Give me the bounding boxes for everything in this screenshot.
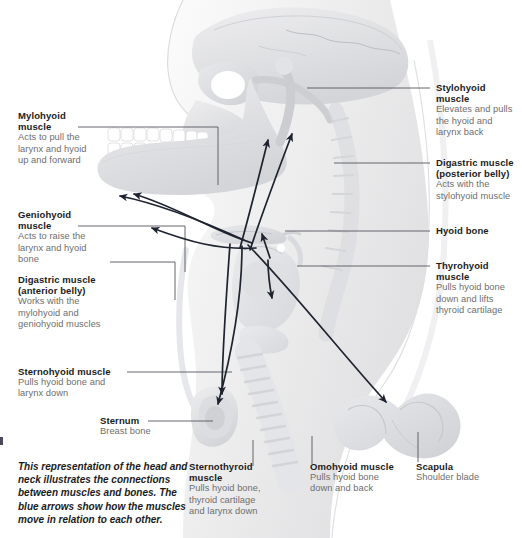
label-geniohyoid-heading-line1: Geniohyoid (18, 209, 96, 220)
label-digastric-anterior: Digastric muscle (anterior belly) Works … (18, 274, 122, 330)
label-sternohyoid-description: Pulls hyoid bone and larynx down (18, 377, 130, 399)
label-digastric-anterior-description: Works with the mylohyoid and geniohyoid … (18, 296, 122, 330)
label-mylohyoid: Mylohyoid muscle Acts to pull the larynx… (18, 110, 88, 166)
label-omohyoid: Omohyoid muscle Pulls hyoid bone down an… (310, 461, 402, 495)
anatomy-figure: Mylohyoid muscle Acts to pull the larynx… (0, 0, 522, 538)
label-sternothyroid-description: Pulls hyoid bone, thyroid cartilage and … (189, 483, 267, 517)
label-digastric-posterior: Digastric muscle (posterior belly) Acts … (436, 157, 520, 202)
label-omohyoid-description: Pulls hyoid bone down and back (310, 472, 402, 494)
label-thyrohyoid: Thyrohyoid muscle Pulls hyoid bone down … (436, 260, 520, 316)
label-hyoid-bone: Hyoid bone (436, 225, 520, 236)
label-geniohyoid-description: Acts to raise the larynx and hyoid bone (18, 231, 96, 265)
label-sternum: Sternum Breast bone (100, 415, 162, 437)
label-scapula-heading: Scapula (416, 461, 512, 472)
label-sternohyoid-heading: Sternohyoid muscle (18, 366, 130, 377)
label-mylohyoid-heading-line2: muscle (18, 121, 88, 132)
label-stylohyoid-heading: Stylohyoid muscle (436, 82, 520, 104)
label-stylohyoid: Stylohyoid muscle Elevates and pulls the… (436, 82, 520, 138)
label-thyrohyoid-heading-line1: Thyrohyoid (436, 260, 520, 271)
scapula-bone (334, 394, 461, 459)
label-sternothyroid-heading-line1: Sternothyroid (189, 461, 267, 472)
label-mylohyoid-description: Acts to pull the larynx and hyoid up and… (18, 132, 88, 166)
label-stylohyoid-description: Elevates and pulls the hyoid and larynx … (436, 104, 520, 138)
label-sternothyroid-heading-line2: muscle (189, 472, 267, 483)
label-omohyoid-heading: Omohyoid muscle (310, 461, 402, 472)
label-sternum-description: Breast bone (100, 426, 162, 437)
label-digastric-anterior-heading-line2: (anterior belly) (18, 285, 122, 296)
label-scapula: Scapula Shoulder blade (416, 461, 512, 483)
label-digastric-anterior-heading-line1: Digastric muscle (18, 274, 122, 285)
label-sternohyoid: Sternohyoid muscle Pulls hyoid bone and … (18, 366, 130, 400)
label-scapula-description: Shoulder blade (416, 472, 512, 483)
label-digastric-posterior-heading-line1: Digastric muscle (436, 157, 520, 168)
label-mylohyoid-heading-line1: Mylohyoid (18, 110, 88, 121)
label-digastric-posterior-description: Acts with the stylohyoid muscle (436, 179, 520, 201)
figure-caption: This representation of the head and neck… (18, 460, 196, 526)
label-sternum-heading: Sternum (100, 415, 162, 426)
label-thyrohyoid-description: Pulls hyoid bone down and lifts thyroid … (436, 282, 520, 316)
label-thyrohyoid-heading-line2: muscle (436, 271, 520, 282)
label-geniohyoid: Geniohyoid muscle Acts to raise the lary… (18, 209, 96, 265)
label-digastric-posterior-heading-line2: (posterior belly) (436, 168, 520, 179)
label-hyoid-bone-heading: Hyoid bone (436, 225, 520, 236)
label-sternothyroid: Sternothyroid muscle Pulls hyoid bone, t… (189, 461, 267, 517)
edge-crop-mark (0, 437, 3, 445)
label-geniohyoid-heading-line2: muscle (18, 220, 96, 231)
